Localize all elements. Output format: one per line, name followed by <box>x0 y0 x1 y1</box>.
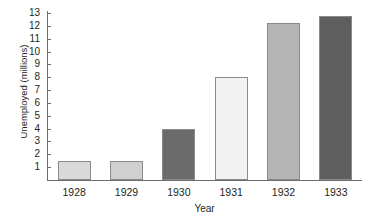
bar-1930 <box>162 129 195 180</box>
x-axis-line <box>47 180 362 181</box>
bar-1928 <box>58 161 91 180</box>
y-tick-label: 4 <box>0 124 40 134</box>
y-tick-label: 8 <box>0 72 40 82</box>
bar-series <box>48 10 362 180</box>
y-tick-label: 9 <box>0 59 40 69</box>
y-tick-label: 12 <box>0 21 40 31</box>
x-tick-label: 1933 <box>306 186 366 198</box>
x-tick-label: 1931 <box>201 186 261 198</box>
bar-1932 <box>267 23 300 180</box>
x-tick-label: 1928 <box>44 186 104 198</box>
bar-1929 <box>110 161 143 180</box>
y-tick-label: 5 <box>0 111 40 121</box>
bar-1933 <box>319 16 352 180</box>
bar-chart: Unemployed (millions) 12345678910111213 … <box>0 0 380 224</box>
y-tick-label: 2 <box>0 149 40 159</box>
bar-1931 <box>215 77 248 180</box>
y-tick-label: 7 <box>0 85 40 95</box>
x-tick-label: 1932 <box>254 186 314 198</box>
x-axis-title: Year <box>47 203 362 214</box>
x-tick-label: 1929 <box>97 186 157 198</box>
y-tick-label: 11 <box>0 34 40 44</box>
y-tick-label: 6 <box>0 98 40 108</box>
y-tick-label: 1 <box>0 162 40 172</box>
x-tick-label: 1930 <box>149 186 209 198</box>
y-tick-label: 10 <box>0 47 40 57</box>
y-tick-label: 13 <box>0 8 40 18</box>
y-tick-label: 3 <box>0 136 40 146</box>
